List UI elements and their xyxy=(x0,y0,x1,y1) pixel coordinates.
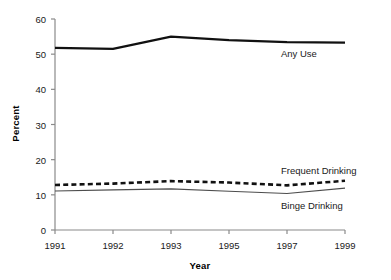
x-tick-label-1991: 1991 xyxy=(35,240,75,251)
x-axis-ticks xyxy=(55,230,345,234)
x-axis-title: Year xyxy=(170,260,230,271)
plot-area xyxy=(0,0,391,280)
y-tick-label-60: 60 xyxy=(22,14,46,25)
x-tick-label-1997: 1997 xyxy=(267,240,307,251)
y-axis-title: Percent xyxy=(10,94,21,154)
x-tick-label-1992: 1992 xyxy=(93,240,133,251)
y-tick-label-50: 50 xyxy=(22,49,46,60)
series-label-frequent-drinking: Frequent Drinking xyxy=(281,165,357,176)
x-tick-label-1993: 1993 xyxy=(151,240,191,251)
x-tick-label-1999: 1999 xyxy=(325,240,365,251)
y-tick-label-0: 0 xyxy=(22,225,46,236)
series-line-frequent-drinking xyxy=(55,181,345,186)
series-label-any-use: Any Use xyxy=(281,48,317,59)
line-chart: Percent Year 60 50 40 30 20 10 0 1991 19… xyxy=(0,0,391,280)
y-tick-label-30: 30 xyxy=(22,120,46,131)
series-label-binge-drinking: Binge Drinking xyxy=(281,200,343,211)
y-tick-label-10: 10 xyxy=(22,190,46,201)
y-tick-label-20: 20 xyxy=(22,155,46,166)
y-tick-label-40: 40 xyxy=(22,84,46,95)
series-line-binge-drinking xyxy=(55,188,345,193)
x-tick-label-1995: 1995 xyxy=(209,240,249,251)
